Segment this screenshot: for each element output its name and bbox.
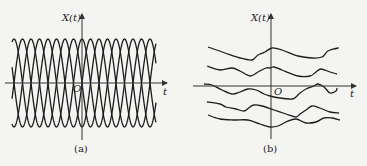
origin-label: O xyxy=(274,86,282,97)
x-axis-label: t xyxy=(350,88,355,99)
caption-a: (a) xyxy=(74,143,88,154)
sample-function xyxy=(207,102,339,117)
sample-function xyxy=(207,66,337,77)
sample-function xyxy=(208,47,338,60)
panel-b: X(t) O t (b) xyxy=(193,12,356,154)
caption-b: (b) xyxy=(263,143,277,154)
y-axis-label: X(t) xyxy=(250,12,270,23)
x-axis-label: t xyxy=(163,86,168,97)
origin-label: O xyxy=(73,83,81,94)
random-process-figure: X(t) O t (a) X(t) O t (b) xyxy=(0,0,367,166)
y-axis-label: X(t) xyxy=(61,12,81,23)
panel-a: X(t) O t (a) xyxy=(5,12,168,154)
random-sample-functions xyxy=(204,47,340,127)
sample-function xyxy=(208,115,340,127)
